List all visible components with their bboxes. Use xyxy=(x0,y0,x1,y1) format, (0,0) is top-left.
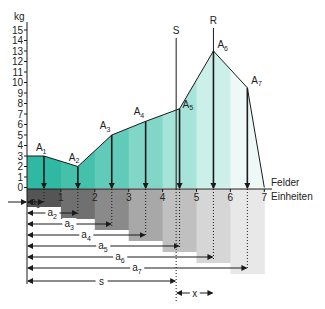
y-tick-label: 3 xyxy=(17,151,23,162)
x-axis-label-felder: Felder xyxy=(271,177,300,188)
y-axis: kg0123456789101112131415 xyxy=(12,11,27,284)
y-tick-label: 1 xyxy=(17,172,23,183)
s-label: S xyxy=(173,25,180,36)
center-of-gravity-diagram: kg0123456789101112131415 1234567FelderEi… xyxy=(0,0,325,309)
staircase-step xyxy=(129,189,163,241)
y-tick-label: 13 xyxy=(12,46,24,57)
load-label: A7 xyxy=(251,75,262,88)
x-distance-label: x xyxy=(192,288,197,299)
y-tick-label: 7 xyxy=(17,109,23,120)
y-tick-label: 12 xyxy=(12,56,24,67)
y-axis-unit: kg xyxy=(14,11,25,22)
y-tick-label: 6 xyxy=(17,119,23,130)
r-label: R xyxy=(210,15,217,26)
x-tick-label: 6 xyxy=(228,192,234,203)
y-tick-label: 5 xyxy=(17,130,23,141)
y-tick-label: 14 xyxy=(12,35,24,46)
y-tick-label: 8 xyxy=(17,98,23,109)
load-label: A4 xyxy=(134,106,145,119)
y-tick-label: 11 xyxy=(13,67,24,78)
x-tick-label: 7 xyxy=(262,192,268,203)
x-tick-label: 1 xyxy=(58,192,64,203)
y-tick-label: 10 xyxy=(12,77,24,88)
y-tick-label: 0 xyxy=(17,182,23,193)
load-label: A6 xyxy=(217,39,228,52)
x-tick-label: 2 xyxy=(92,192,98,203)
x-tick-label: 5 xyxy=(194,192,200,203)
y-tick-label: 9 xyxy=(17,88,23,99)
x-tick-label: 3 xyxy=(126,192,132,203)
x-axis-label-einheiten: Einheiten xyxy=(271,191,313,202)
load-label: A2 xyxy=(69,152,80,165)
y-tick-label: 4 xyxy=(17,140,23,151)
y-tick-label: 15 xyxy=(12,25,24,36)
x-tick-label: 4 xyxy=(160,192,166,203)
y-tick-label: 2 xyxy=(17,161,23,172)
load-label: A3 xyxy=(100,120,111,133)
s-distance-label: s xyxy=(99,276,104,287)
load-label: A1 xyxy=(36,142,47,155)
